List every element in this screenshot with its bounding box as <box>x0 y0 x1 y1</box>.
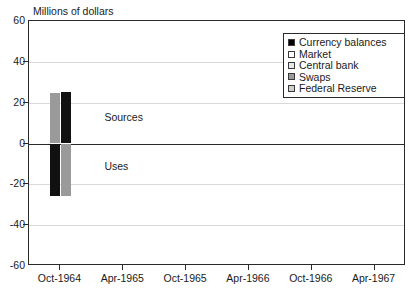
zero-line <box>29 144 404 145</box>
legend-item-3[interactable]: Swaps <box>288 71 399 82</box>
chart-annotation: Uses <box>104 160 128 172</box>
legend-swatch-icon <box>288 73 295 80</box>
y-tick-label: -60 <box>1 259 25 271</box>
chart-annotation: Sources <box>104 111 143 123</box>
y-tick-label: 0 <box>1 137 25 149</box>
y-tick-label: 60 <box>1 14 25 26</box>
x-tick-label: Oct-1966 <box>289 272 332 284</box>
legend-item-0[interactable]: Currency balances <box>288 37 399 48</box>
bar-segment <box>61 144 71 196</box>
gridline--40 <box>29 225 404 226</box>
x-tick-label: Apr-1965 <box>101 272 144 284</box>
bar-segment <box>50 144 60 196</box>
legend-swatch-icon <box>288 85 295 92</box>
chart-legend: Currency balancesMarketCentral bankSwaps… <box>283 33 405 98</box>
legend-swatch-icon <box>288 39 295 46</box>
gridline-20 <box>29 103 404 104</box>
legend-item-4[interactable]: Federal Reserve <box>288 83 399 94</box>
legend-item-1[interactable]: Market <box>288 48 399 59</box>
legend-label: Federal Reserve <box>299 83 377 94</box>
y-tick-label: 40 <box>1 55 25 67</box>
x-tick-label: Apr-1967 <box>352 272 395 284</box>
legend-label: Currency balances <box>299 37 387 48</box>
bar-segment <box>61 92 71 143</box>
bar-segment <box>50 93 60 143</box>
x-tick-label: Oct-1964 <box>38 272 81 284</box>
x-tick-mark <box>122 265 123 270</box>
legend-label: Market <box>299 49 331 60</box>
x-tick-mark <box>374 265 375 270</box>
y-tick-label: 20 <box>1 96 25 108</box>
legend-swatch-icon <box>288 62 295 69</box>
x-tick-mark <box>59 265 60 270</box>
legend-swatch-icon <box>288 51 295 58</box>
x-tick-mark <box>248 265 249 270</box>
y-tick-label: -40 <box>1 218 25 230</box>
x-tick-mark <box>311 265 312 270</box>
chart-container: Millions of dollars 6040200-20-40-60 Oct… <box>0 0 417 300</box>
legend-label: Central bank <box>299 60 359 71</box>
x-tick-label: Apr-1966 <box>226 272 269 284</box>
y-axis-title: Millions of dollars <box>33 5 114 17</box>
x-tick-label: Oct-1965 <box>163 272 206 284</box>
legend-item-2[interactable]: Central bank <box>288 60 399 71</box>
y-tick-label: -20 <box>1 177 25 189</box>
x-tick-mark <box>185 265 186 270</box>
gridline--20 <box>29 184 404 185</box>
legend-label: Swaps <box>299 72 331 83</box>
